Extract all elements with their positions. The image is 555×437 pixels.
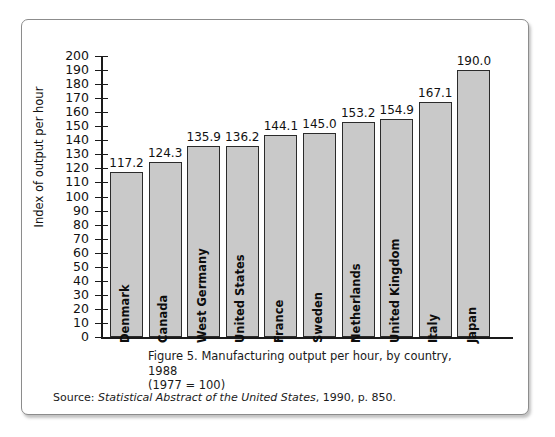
y-axis-tick-label: 70 <box>49 233 89 245</box>
y-axis-tick-30 <box>95 295 108 296</box>
y-axis-tick-label: 190 <box>49 64 89 76</box>
y-axis-tick-label: 180 <box>49 78 89 90</box>
figure-caption: Figure 5. Manufacturing output per hour,… <box>148 349 478 393</box>
bar-category-label: Japan <box>465 307 479 343</box>
bar-value-label: 124.3 <box>135 146 195 160</box>
figure-source: Source: Statistical Abstract of the Unit… <box>53 391 396 404</box>
y-axis-tick-label: 30 <box>49 289 89 301</box>
y-axis-tick-label: 120 <box>49 162 89 174</box>
figure-root: Index of output per hour 200190180170160… <box>0 0 555 437</box>
y-axis-tick-label: 140 <box>49 134 89 146</box>
y-axis-tick-label: 200 <box>49 50 89 62</box>
y-axis-tick-130 <box>95 154 108 155</box>
bar-category-label: West Germany <box>195 248 209 343</box>
y-axis-tick-60 <box>95 253 108 254</box>
bar-category-label: France <box>272 300 286 343</box>
y-axis-tick-70 <box>95 239 108 240</box>
y-axis-tick-label: 50 <box>49 261 89 273</box>
bar-category-label: United Kingdom <box>388 239 402 343</box>
bar-value-label: 190.0 <box>444 54 504 68</box>
y-axis-tick-label: 80 <box>49 219 89 231</box>
source-prefix: Source: <box>53 391 95 404</box>
y-axis-tick-label: 0 <box>49 331 89 343</box>
y-axis-tick-10 <box>95 323 108 324</box>
y-axis-tick-label: 60 <box>49 247 89 259</box>
y-axis-tick-label: 130 <box>49 148 89 160</box>
y-axis-tick-110 <box>95 182 108 183</box>
y-axis-tick-160 <box>95 112 108 113</box>
y-axis-title: Index of output per hour <box>32 57 46 257</box>
y-axis-tick-140 <box>95 140 108 141</box>
y-axis-tick-label: 110 <box>49 176 89 188</box>
bar-category-label: United States <box>233 254 247 343</box>
y-axis-tick-label: 40 <box>49 275 89 287</box>
y-axis-tick-0 <box>95 337 108 338</box>
bar-category-label: Denmark <box>118 284 132 343</box>
y-axis-tick-label: 170 <box>49 92 89 104</box>
bar-italy <box>419 102 452 337</box>
y-axis-tick-label: 90 <box>49 205 89 217</box>
caption-line-1: Figure 5. Manufacturing output per hour,… <box>148 349 452 378</box>
y-axis-tick-label: 20 <box>49 303 89 315</box>
source-publication-title: Statistical Abstract of the United State… <box>98 391 316 404</box>
y-axis-tick-200 <box>95 56 108 57</box>
y-axis-tick-label: 150 <box>49 120 89 132</box>
y-axis-tick-190 <box>95 70 108 71</box>
y-axis-tick-150 <box>95 126 108 127</box>
bar-value-label: 154.9 <box>367 103 427 117</box>
bar-category-label: Italy <box>426 314 440 343</box>
y-axis-tick-100 <box>95 197 108 198</box>
y-axis-tick-20 <box>95 309 108 310</box>
y-axis-tick-label: 10 <box>49 317 89 329</box>
y-axis-tick-180 <box>95 84 108 85</box>
y-axis-tick-170 <box>95 98 108 99</box>
y-axis-tick-50 <box>95 267 108 268</box>
y-axis-tick-80 <box>95 225 108 226</box>
bar-category-label: Sweden <box>311 292 325 343</box>
bar-category-label: Netherlands <box>349 263 363 343</box>
bar-category-label: Canada <box>156 295 170 343</box>
y-axis-tick-90 <box>95 211 108 212</box>
y-axis-tick-label: 160 <box>49 106 89 118</box>
y-axis-tick-40 <box>95 281 108 282</box>
bar-value-label: 167.1 <box>405 86 465 100</box>
source-rest: , 1990, p. 850. <box>316 391 396 404</box>
bar-japan <box>457 70 490 337</box>
y-axis-tick-label: 100 <box>49 191 89 203</box>
